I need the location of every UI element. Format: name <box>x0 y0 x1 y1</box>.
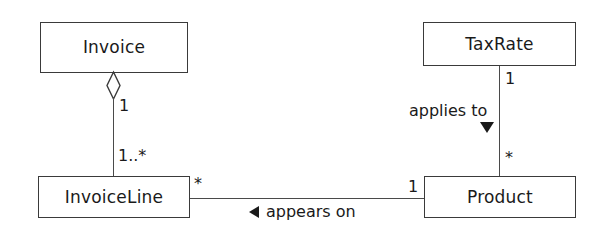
class-box-invoiceline[interactable]: InvoiceLine <box>38 176 190 218</box>
multiplicity-product-left: 1 <box>408 179 418 195</box>
association-label-appears-on: appears on <box>266 204 356 220</box>
multiplicity-product-top: * <box>505 150 513 166</box>
multiplicity-invoiceline-right: * <box>194 176 202 192</box>
class-box-invoice[interactable]: Invoice <box>40 22 188 73</box>
class-box-taxrate[interactable]: TaxRate <box>423 22 576 66</box>
navigability-arrow-down-icon <box>480 122 494 133</box>
multiplicity-taxrate-bottom: 1 <box>505 71 515 87</box>
navigability-arrow-left-icon <box>249 206 259 218</box>
uml-class-diagram: Invoice TaxRate InvoiceLine Product 1 1.… <box>0 0 606 246</box>
association-label-applies-to: applies to <box>409 103 487 119</box>
class-box-product[interactable]: Product <box>424 176 576 218</box>
edge-invoiceline-product <box>190 198 424 199</box>
multiplicity-invoiceline-end: 1..* <box>118 148 146 164</box>
class-name-invoiceline: InvoiceLine <box>65 189 163 206</box>
edge-taxrate-product <box>499 66 500 176</box>
class-name-product: Product <box>467 189 533 206</box>
class-name-taxrate: TaxRate <box>465 36 533 53</box>
multiplicity-invoice-end: 1 <box>119 98 129 114</box>
edge-invoice-invoiceline <box>113 97 114 176</box>
class-name-invoice: Invoice <box>83 39 145 56</box>
